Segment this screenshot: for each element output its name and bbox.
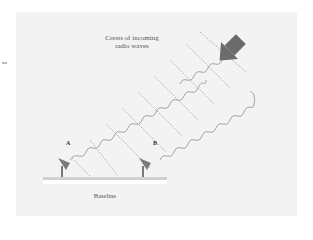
crest-lines	[72, 32, 246, 176]
antenna-a-label: A	[66, 139, 70, 147]
caption-line-1: Crests of incoming	[92, 34, 172, 42]
radio-dish-icon	[58, 158, 70, 177]
baseline-label: Baseline	[85, 192, 125, 200]
baseline-bar	[43, 177, 167, 180]
wave-b	[160, 92, 255, 160]
caption: Crests of incoming radio waves	[92, 34, 172, 50]
baseline-shadow	[43, 180, 167, 184]
antenna-b-label: B	[153, 139, 157, 147]
caption-line-2: radio waves	[92, 42, 172, 50]
arrow-icon	[211, 31, 249, 69]
